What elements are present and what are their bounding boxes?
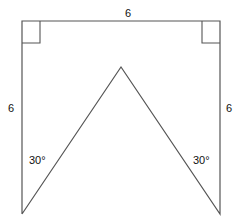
geometry-diagram: 6 6 6 30° 30°	[0, 0, 238, 223]
left-side-label: 6	[8, 102, 14, 114]
right-angle-marker-top-left	[22, 21, 40, 43]
right-angle-label: 30°	[193, 154, 210, 166]
figure-outline	[22, 21, 220, 214]
right-angle-marker-top-right	[202, 21, 220, 43]
left-angle-label: 30°	[29, 154, 46, 166]
right-side-label: 6	[226, 102, 232, 114]
top-side-label: 6	[125, 7, 131, 19]
